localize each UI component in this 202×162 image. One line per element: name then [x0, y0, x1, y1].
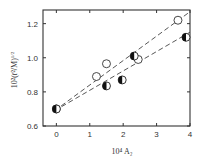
open-circle-marker — [174, 16, 182, 24]
x-axis-label: 10⁴ A₂ — [112, 147, 133, 156]
y-axis-label: 10²(r̄²/M)1/2 — [10, 51, 19, 88]
dashed-fit-line — [55, 12, 190, 111]
y-tick-label: 1.0 — [27, 54, 39, 63]
x-tick-label: 2 — [121, 130, 126, 139]
axis-ticks: 012340.60.81.01.2 — [27, 10, 193, 139]
x-tick-label: 4 — [188, 130, 193, 139]
y-tick-label: 1.2 — [27, 20, 39, 29]
data-points — [52, 16, 190, 113]
y-tick-label: 0.8 — [27, 88, 39, 97]
open-circle-marker — [92, 73, 100, 81]
y-tick-label: 0.6 — [27, 122, 39, 131]
open-circle-marker — [102, 60, 110, 68]
fit-lines — [55, 12, 190, 111]
dashed-fit-line — [55, 32, 190, 110]
scatter-chart: 012340.60.81.01.2 10⁴ A₂ 10²(r̄²/M)1/2 — [0, 0, 202, 162]
x-tick-label: 0 — [54, 130, 59, 139]
x-tick-label: 3 — [154, 130, 159, 139]
x-tick-label: 1 — [88, 130, 93, 139]
